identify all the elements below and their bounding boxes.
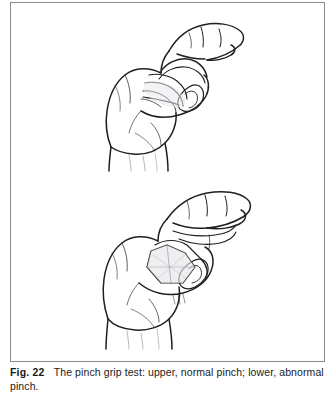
figure-caption: Fig. 22The pinch grip test: upper, norma…	[10, 366, 330, 393]
figure-caption-text: The pinch grip test: upper, normal pinch…	[10, 366, 324, 392]
abnormal-pinch-hand-drawing	[73, 183, 263, 351]
figure-label: Fig. 22	[10, 366, 45, 378]
pinch-aperture-shading	[143, 81, 186, 108]
abnormal-pinch-svg	[73, 183, 263, 351]
normal-pinch-hand-drawing	[73, 13, 263, 173]
figure-frame	[10, 2, 325, 362]
normal-pinch-svg	[73, 13, 263, 173]
